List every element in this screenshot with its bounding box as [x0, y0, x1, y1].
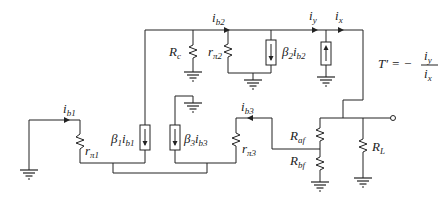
current-arrow-icon — [224, 27, 230, 33]
ground-icon — [317, 77, 335, 86]
current-source-beta2 — [266, 30, 276, 65]
label-rbf: Rbf — [289, 153, 306, 170]
circuit-schematic: ib1 rπ1 β1ib1 β3ib3 Rc ib2 rπ2 β2ib2 iy … — [0, 0, 439, 205]
label-beta3: β3ib3 — [183, 131, 208, 148]
formula-lhs: T′ = − — [378, 56, 412, 71]
resistor-rpi2 — [224, 30, 271, 89]
emitter-link-wire — [113, 163, 207, 173]
label-beta2: β2ib2 — [281, 44, 306, 61]
ground-icon — [20, 170, 38, 179]
ground-icon — [244, 80, 262, 89]
ground-icon — [354, 178, 372, 187]
ground-icon — [311, 182, 329, 191]
label-ib1: ib1 — [63, 101, 76, 118]
ground-icon — [184, 72, 202, 81]
resistor-rc — [184, 30, 202, 81]
label-rpi3: rπ3 — [242, 141, 257, 158]
formula-numerator: iy — [424, 48, 432, 65]
label-raf: Raf — [289, 128, 306, 145]
current-arrow-icon — [338, 27, 344, 33]
output-terminal — [391, 116, 396, 121]
label-ib2: ib2 — [212, 10, 225, 27]
label-iy: iy — [309, 8, 317, 25]
label-ib3: ib3 — [241, 99, 254, 116]
label-rl: RL — [371, 139, 385, 156]
resistor-rl — [354, 118, 372, 187]
label-rpi2: rπ2 — [208, 44, 223, 61]
current-arrow-icon — [312, 27, 318, 33]
current-source-beta3 — [170, 96, 236, 163]
label-rc: Rc — [168, 44, 181, 61]
input-branch — [20, 117, 145, 179]
ground-icon — [184, 103, 202, 112]
label-ix: ix — [335, 8, 343, 25]
loop-gain-formula: T′ = − iy ix — [378, 48, 438, 83]
circuit-diagram: ib1 rπ1 β1ib1 β3ib3 Rc ib2 rπ2 β2ib2 iy … — [0, 0, 439, 205]
test-current-source — [317, 30, 335, 86]
label-beta1: β1ib1 — [110, 131, 135, 148]
resistor-rpi1 — [76, 134, 84, 149]
formula-denominator: ix — [424, 66, 432, 83]
label-rpi1: rπ1 — [85, 143, 99, 160]
